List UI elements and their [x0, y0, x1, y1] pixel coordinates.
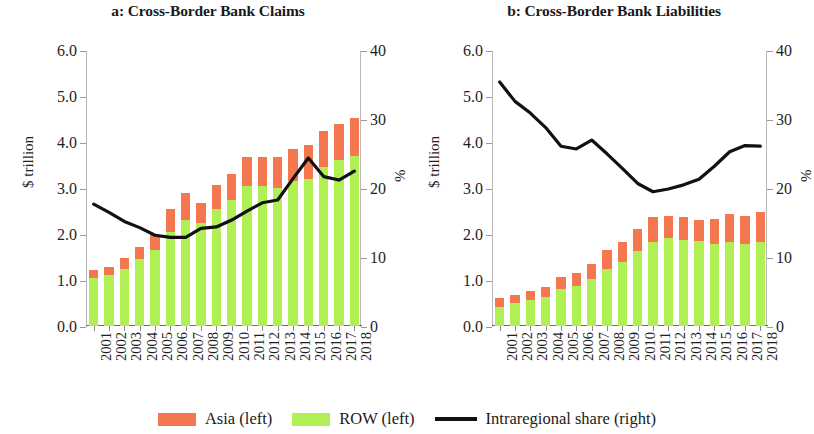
- panel-a-y2-axis-title: %: [392, 170, 409, 183]
- y-tick-left: [80, 327, 86, 328]
- y-tick-label-left: 5.0: [463, 89, 483, 105]
- x-tick: [262, 326, 263, 331]
- x-tick-label: 2008: [612, 332, 627, 361]
- x-tick-label: 2013: [283, 332, 298, 361]
- x-tick-label: 2014: [704, 332, 719, 361]
- x-tick-label: 2003: [535, 332, 550, 361]
- y-tick-label-left: 1.0: [57, 273, 77, 289]
- legend-swatch-asia: [158, 413, 196, 426]
- x-tick-label: 2005: [160, 332, 175, 361]
- panel-b-x-tick-labels: 2001200220032004200520062007200820092010…: [492, 332, 768, 396]
- panel-a-y-axis-title: $ trillion: [20, 136, 37, 188]
- y-tick-label-right: 40: [776, 43, 792, 59]
- chart-panel-b: b: Cross-Border Bank Liabilities $ trill…: [414, 0, 814, 398]
- x-tick: [546, 326, 547, 331]
- x-tick-label: 2012: [673, 332, 688, 361]
- figure-cross-border-banking: a: Cross-Border Bank Claims $ trillion %…: [0, 0, 814, 434]
- panel-a-title: a: Cross-Border Bank Claims: [8, 2, 408, 20]
- y-tick-label-left: 4.0: [463, 135, 483, 151]
- x-tick: [216, 326, 217, 331]
- x-tick-label: 2004: [145, 332, 160, 361]
- x-tick-label: 2009: [221, 332, 236, 361]
- x-tick-label: 2010: [643, 332, 658, 361]
- x-tick: [354, 326, 355, 331]
- x-tick: [515, 326, 516, 331]
- y-tick-label-right: 20: [370, 181, 386, 197]
- x-tick-label: 2012: [267, 332, 282, 361]
- x-tick: [324, 326, 325, 331]
- x-tick: [94, 326, 95, 331]
- legend-label: ROW (left): [339, 409, 414, 429]
- x-tick: [699, 326, 700, 331]
- panel-a-plot-area: 0.01.02.03.04.05.06.0 010203040: [86, 51, 361, 326]
- y-tick-label-left: 0.0: [57, 319, 77, 335]
- legend-item-share[interactable]: Intraregional share (right): [435, 409, 656, 429]
- y-tick-label-right: 20: [776, 181, 792, 197]
- x-tick: [638, 326, 639, 331]
- x-tick: [109, 326, 110, 331]
- x-tick: [668, 326, 669, 331]
- x-tick: [278, 326, 279, 331]
- x-tick: [684, 326, 685, 331]
- y-tick-label-left: 0.0: [463, 319, 483, 335]
- panel-b-title: b: Cross-Border Bank Liabilities: [414, 2, 814, 20]
- x-tick: [170, 326, 171, 331]
- y-tick-label-left: 4.0: [57, 135, 77, 151]
- y-tick-right: [767, 327, 773, 328]
- legend-item-row[interactable]: ROW (left): [292, 409, 414, 429]
- chart-legend: Asia (left)ROW (left)Intraregional share…: [0, 404, 814, 434]
- x-tick-label: 2002: [114, 332, 129, 361]
- x-tick: [592, 326, 593, 331]
- y-tick-label-right: 10: [370, 250, 386, 266]
- y-tick-label-left: 6.0: [57, 43, 77, 59]
- x-tick: [201, 326, 202, 331]
- x-tick: [308, 326, 309, 331]
- panel-b-plot-area: 0.01.02.03.04.05.06.0 010203040: [492, 51, 767, 326]
- chart-panel-a: a: Cross-Border Bank Claims $ trillion %…: [8, 0, 408, 398]
- x-tick-label: 2016: [735, 332, 750, 361]
- x-tick-label: 2008: [206, 332, 221, 361]
- legend-swatch-row: [292, 413, 330, 426]
- legend-label: Intraregional share (right): [486, 409, 656, 429]
- x-tick-label: 2001: [99, 332, 114, 361]
- x-tick: [760, 326, 761, 331]
- x-tick-label: 2010: [237, 332, 252, 361]
- x-tick-label: 2018: [359, 332, 374, 361]
- panel-b-line-series: [492, 51, 768, 327]
- x-tick-label: 2017: [750, 332, 765, 361]
- y-tick-label-left: 3.0: [57, 181, 77, 197]
- x-tick-label: 2001: [505, 332, 520, 361]
- x-tick: [730, 326, 731, 331]
- intraregional-share-line: [94, 158, 355, 237]
- x-tick: [140, 326, 141, 331]
- x-tick-label: 2018: [765, 332, 780, 361]
- y-tick-label-right: 10: [776, 250, 792, 266]
- panel-a-x-tick-labels: 2001200220032004200520062007200820092010…: [86, 332, 362, 396]
- intraregional-share-line: [500, 82, 761, 192]
- x-tick-label: 2015: [719, 332, 734, 361]
- y-tick-label-left: 3.0: [463, 181, 483, 197]
- x-tick-label: 2005: [566, 332, 581, 361]
- panel-b-y-axis-title: $ trillion: [426, 136, 443, 188]
- x-tick: [232, 326, 233, 331]
- x-tick-label: 2011: [252, 332, 267, 360]
- x-tick: [745, 326, 746, 331]
- x-tick-label: 2014: [298, 332, 313, 361]
- x-tick: [622, 326, 623, 331]
- y-tick-right: [361, 327, 367, 328]
- x-tick-label: 2011: [658, 332, 673, 360]
- x-tick-label: 2006: [581, 332, 596, 361]
- x-tick: [607, 326, 608, 331]
- legend-item-asia[interactable]: Asia (left): [158, 409, 272, 429]
- panel-b-y2-axis-title: %: [798, 170, 814, 183]
- x-tick-label: 2007: [597, 332, 612, 361]
- x-tick-label: 2003: [129, 332, 144, 361]
- y-tick-label-right: 30: [776, 112, 792, 128]
- x-tick: [339, 326, 340, 331]
- y-tick-label-left: 6.0: [463, 43, 483, 59]
- legend-line-marker: [435, 417, 477, 421]
- x-tick: [530, 326, 531, 331]
- y-tick-left: [486, 327, 492, 328]
- x-tick: [293, 326, 294, 331]
- x-tick-label: 2002: [520, 332, 535, 361]
